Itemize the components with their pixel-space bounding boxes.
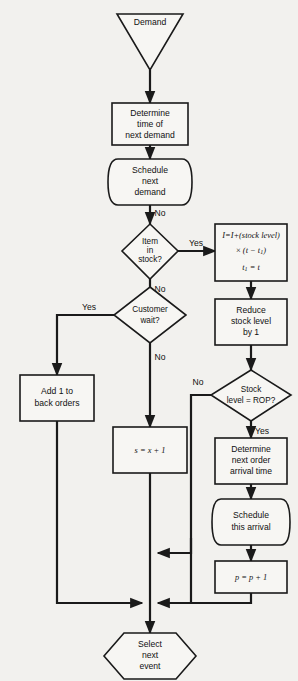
- edge-label-item-yes: Yes: [189, 238, 203, 248]
- item-in-stock-line3: stock?: [138, 255, 162, 264]
- edge-label-schedule-no: No: [155, 208, 166, 218]
- node-update-i[interactable]: I=I+(stock level) × (t − t1) t1 = t: [215, 224, 287, 281]
- edge-label-rop-yes: Yes: [255, 426, 269, 436]
- node-increment-p[interactable]: p = p + 1: [215, 561, 287, 593]
- node-demand[interactable]: Demand: [117, 14, 183, 70]
- edge-label-wait-no: No: [155, 352, 166, 362]
- node-add-back-orders[interactable]: Add 1 to back orders: [20, 375, 94, 421]
- item-in-stock-line1: Item: [142, 237, 158, 246]
- edge-rop-no: [191, 395, 218, 603]
- node-select-next-event[interactable]: Select next event: [104, 633, 196, 679]
- stock-rop-line1: Stock: [241, 385, 262, 394]
- flowchart-canvas: Demand Determine time of next demand Sch…: [0, 0, 298, 681]
- determine-arrival-line1: Determine: [231, 444, 271, 454]
- node-item-in-stock[interactable]: Item in stock?: [122, 224, 178, 279]
- edge-wait-yes: [57, 315, 122, 375]
- node-reduce-stock[interactable]: Reduce stock level by 1: [215, 299, 287, 345]
- customer-wait-diamond: [114, 287, 186, 343]
- add-back-orders-line1: Add 1 to: [41, 386, 73, 396]
- node-stock-rop[interactable]: Stock level = ROP?: [211, 370, 291, 421]
- determine-time-line3: next demand: [125, 130, 175, 140]
- select-next-event-line3: event: [139, 661, 161, 671]
- determine-arrival-line3: arrival time: [230, 466, 272, 476]
- reduce-stock-line2: stock level: [231, 316, 271, 326]
- schedule-arrival-line2: this arrival: [231, 522, 270, 532]
- schedule-arrival-line1: Schedule: [233, 510, 269, 520]
- stock-rop-line2: level = ROP?: [227, 396, 276, 405]
- determine-time-line2: time of: [137, 119, 163, 129]
- select-next-event-line1: Select: [138, 639, 162, 649]
- reduce-stock-line3: by 1: [243, 327, 259, 337]
- edge-merge-to-main: [158, 538, 191, 553]
- node-determine-arrival[interactable]: Determine next order arrival time: [215, 438, 287, 484]
- update-i-line1: I=I+(stock level): [221, 231, 280, 240]
- schedule-demand-line1: Schedule: [132, 165, 168, 175]
- increment-p-label: p = p + 1: [234, 573, 267, 582]
- add-back-orders-line2: back orders: [35, 398, 80, 408]
- determine-arrival-line2: next order: [232, 455, 271, 465]
- edge-label-rop-no: No: [193, 377, 204, 387]
- schedule-demand-line2: next: [142, 176, 159, 186]
- node-customer-wait[interactable]: Customer wait?: [114, 287, 186, 343]
- customer-wait-line1: Customer: [132, 305, 168, 314]
- select-next-event-line2: next: [142, 650, 159, 660]
- reduce-stock-line1: Reduce: [236, 305, 266, 315]
- increment-s-label: s = x + 1: [135, 446, 166, 455]
- node-schedule-demand[interactable]: Schedule next demand: [108, 159, 192, 205]
- demand-label: Demand: [134, 17, 167, 27]
- edge-label-wait-yes: Yes: [82, 302, 96, 312]
- determine-time-line1: Determine: [130, 108, 170, 118]
- node-determine-time[interactable]: Determine time of next demand: [112, 103, 188, 145]
- schedule-demand-line3: demand: [134, 187, 165, 197]
- item-in-stock-line2: in: [147, 246, 154, 255]
- edge-incp-to-bottom: [158, 593, 251, 603]
- node-increment-s[interactable]: s = x + 1: [113, 427, 187, 473]
- node-schedule-arrival[interactable]: Schedule this arrival: [212, 499, 290, 545]
- customer-wait-line2: wait?: [139, 316, 160, 325]
